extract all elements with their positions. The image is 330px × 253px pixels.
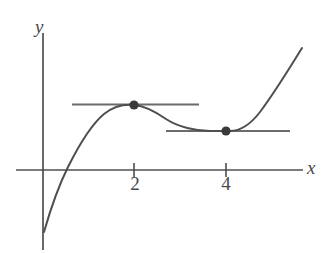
graph-figure: y x 2 4	[0, 0, 330, 253]
x-tick-label-2: 2	[124, 174, 146, 193]
x-axis-label: x	[307, 158, 315, 177]
function-curve	[44, 48, 302, 232]
x-tick-label-4: 4	[215, 174, 237, 193]
y-axis-label: y	[35, 17, 43, 36]
local-maximum-point	[129, 100, 138, 109]
plot-canvas	[0, 0, 330, 253]
local-minimum-point	[221, 126, 230, 135]
